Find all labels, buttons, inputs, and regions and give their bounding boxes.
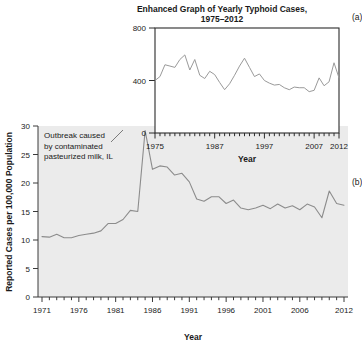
main-x-ticklabel: 2012 — [335, 306, 353, 315]
main-x-ticklabel: 2001 — [254, 306, 272, 315]
inset-title-line2: 1975–2012 — [201, 14, 244, 24]
inset-x-ticks — [155, 133, 339, 139]
inset-x-axis-title: Year — [238, 154, 257, 164]
main-x-ticklabel: 1996 — [217, 306, 235, 315]
inset-x-ticklabel: 1997 — [256, 142, 274, 151]
main-y-ticklabel: 5 — [26, 265, 31, 274]
inset-x-ticklabels: 19751987199720072012 — [146, 142, 348, 151]
inset-x-ticklabel: 1987 — [206, 142, 224, 151]
main-x-ticklabel: 1981 — [107, 306, 125, 315]
inset-title-line1: Enhanced Graph of Yearly Typhoid Cases, — [137, 4, 307, 14]
main-x-ticklabel: 1971 — [33, 306, 51, 315]
main-x-axis-title: Year — [184, 332, 203, 342]
inset-y-ticklabels: 0 400 800 — [133, 24, 147, 138]
main-x-ticklabel: 1986 — [144, 306, 162, 315]
main-y-axis-title: Reported Cases per 100,000 Population — [4, 132, 14, 292]
main-y-ticklabel: 20 — [21, 179, 30, 188]
main-y-ticklabel: 10 — [21, 236, 30, 245]
outbreak-annotation: Outbreak caused by contaminated pasteuri… — [44, 131, 113, 163]
main-x-ticklabels: 197119761981198619911996200120062012 — [33, 306, 353, 315]
panel-letter-a: (a) — [352, 12, 362, 22]
main-x-ticklabel: 2006 — [291, 306, 309, 315]
main-y-ticks — [33, 126, 38, 297]
inset-plot-frame — [155, 28, 339, 133]
main-y-ticklabel: 30 — [21, 122, 30, 131]
inset-y-ticklabel: 800 — [133, 24, 147, 33]
main-x-ticklabel: 1976 — [70, 306, 88, 315]
inset-x-ticklabel: 1975 — [146, 142, 164, 151]
inset-x-ticklabel: 2012 — [330, 142, 348, 151]
inset-y-ticklabel: 0 — [142, 129, 147, 138]
inset-typhoid-cases-chart: Enhanced Graph of Yearly Typhoid Cases, … — [104, 0, 361, 168]
main-y-ticklabel: 15 — [21, 208, 30, 217]
inset-y-ticks — [149, 28, 155, 133]
main-x-ticks — [42, 297, 344, 302]
panel-letter-b: (b) — [352, 177, 362, 187]
main-y-ticklabels: 0 5 10 15 20 25 30 — [21, 122, 30, 302]
main-y-ticklabel: 0 — [26, 293, 31, 302]
inset-y-ticklabel: 400 — [133, 77, 147, 86]
main-y-ticklabel: 25 — [21, 151, 30, 160]
inset-x-ticklabel: 2007 — [305, 142, 323, 151]
main-x-ticklabel: 1991 — [180, 306, 198, 315]
